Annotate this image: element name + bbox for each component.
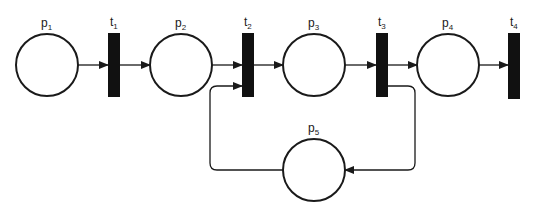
place-p3	[283, 34, 345, 96]
transition-t1	[108, 33, 120, 97]
place-p2	[150, 34, 212, 96]
place-p5	[283, 139, 345, 201]
label-t4: t4	[510, 15, 518, 31]
label-p4: p4	[442, 16, 454, 32]
place-p1	[16, 34, 78, 96]
petri-net-diagram: p1 p2 p3 p4 p5 t1 t2 t3 t4	[0, 0, 536, 211]
label-p2: p2	[175, 16, 187, 32]
label-p3: p3	[308, 16, 320, 32]
label-p5: p5	[308, 121, 320, 137]
transition-t3	[376, 33, 388, 97]
label-p1: p1	[41, 16, 53, 32]
label-t1: t1	[110, 15, 118, 31]
transition-t4	[508, 33, 520, 99]
label-t3: t3	[378, 15, 386, 31]
arc-t3-p5	[345, 86, 415, 170]
transition-t2	[242, 33, 254, 97]
place-p4	[417, 34, 479, 96]
arc-p5-t2	[210, 86, 283, 170]
label-t2: t2	[244, 15, 252, 31]
diagram-svg: p1 p2 p3 p4 p5 t1 t2 t3 t4	[0, 0, 536, 211]
